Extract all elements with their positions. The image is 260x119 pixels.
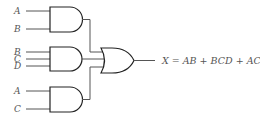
logic-circuit-diagram: A B B C D A C X = AB + BCD + AC bbox=[0, 0, 260, 119]
interconnect-wires bbox=[82, 20, 105, 100]
input-label-c3: C bbox=[14, 104, 21, 114]
and-gate-1 bbox=[50, 7, 83, 32]
output-expression: X = AB + BCD + AC bbox=[161, 55, 260, 66]
input-label-d2: D bbox=[13, 61, 21, 71]
and-gate-3 bbox=[50, 87, 83, 112]
and-gate-2 bbox=[50, 47, 82, 71]
input-label-b1: B bbox=[13, 24, 21, 34]
or-gate bbox=[101, 48, 134, 73]
input-wires bbox=[26, 11, 50, 109]
input-label-a3: A bbox=[13, 86, 21, 96]
input-label-a1: A bbox=[13, 6, 21, 16]
